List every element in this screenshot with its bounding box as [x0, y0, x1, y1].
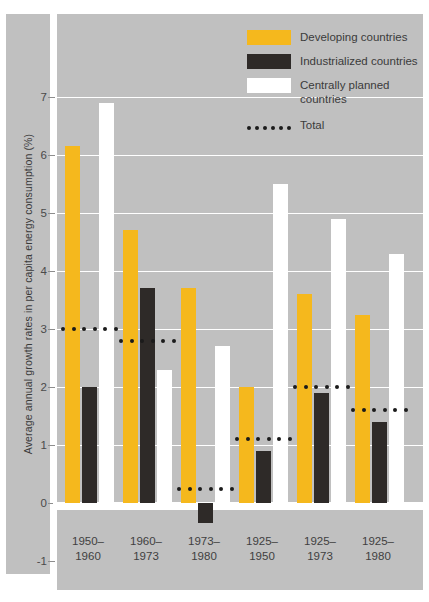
bar-developing — [239, 387, 254, 503]
y-tick-mark-1 — [48, 445, 55, 446]
total-marker-dot — [304, 385, 308, 389]
total-marker-dot — [103, 327, 107, 331]
bar-group — [181, 14, 239, 502]
total-marker-dot — [277, 437, 281, 441]
y-tick-mark-neg1 — [48, 561, 55, 562]
total-marker — [119, 339, 176, 343]
total-marker-dot — [198, 487, 202, 491]
x-tick-label-line1: 1960– — [117, 534, 175, 549]
total-marker-dot — [172, 339, 176, 343]
x-tick-label-line2: 1973 — [291, 549, 349, 564]
bar-centrally-planned — [273, 184, 288, 503]
y-tick-label-5: 5 — [41, 207, 47, 219]
x-tick-label-line1: 1950– — [59, 534, 117, 549]
total-marker-dot — [177, 487, 181, 491]
bar-group — [65, 14, 123, 502]
total-marker-dot — [119, 339, 123, 343]
total-marker — [293, 385, 350, 389]
total-marker — [351, 408, 408, 412]
total-marker-dot — [72, 327, 76, 331]
y-tick-mark-3 — [48, 329, 55, 330]
total-marker-dot — [230, 487, 234, 491]
bar-industrialized — [198, 503, 213, 523]
total-marker-dot — [362, 408, 366, 412]
y-tick-label-1: 1 — [41, 439, 47, 451]
legend-swatch-industrialized — [247, 54, 291, 69]
legend-item-total: Total — [247, 118, 427, 135]
bar-developing — [181, 288, 196, 503]
x-tick-label-line2: 1960 — [59, 549, 117, 564]
x-tick-label-line2: 1973 — [117, 549, 175, 564]
legend-item-centrally-planned: Centrally planned countries — [247, 78, 427, 106]
total-marker-dot — [393, 408, 397, 412]
bar-industrialized — [314, 393, 329, 503]
bar-industrialized — [140, 288, 155, 503]
total-marker-dot — [93, 327, 97, 331]
x-axis-labels: 1950–19601960–19731973–19801925–19501925… — [57, 510, 423, 590]
legend-label-centrally-planned: Centrally planned countries — [300, 78, 390, 106]
total-marker — [235, 437, 292, 441]
x-tick-label-line1: 1925– — [233, 534, 291, 549]
x-tick-label-line1: 1925– — [291, 534, 349, 549]
y-tick-label-4: 4 — [41, 265, 47, 277]
bar-industrialized — [372, 422, 387, 503]
total-marker — [61, 327, 118, 331]
total-marker-dot — [404, 408, 408, 412]
total-marker-dot — [140, 339, 144, 343]
legend-label-centrally-planned-line2: countries — [300, 92, 390, 106]
legend-label-industrialized: Industrialized countries — [300, 54, 418, 68]
total-marker-dot — [61, 327, 65, 331]
total-marker-dot — [335, 385, 339, 389]
x-tick-label: 1925–1973 — [291, 534, 349, 564]
total-marker-dot — [346, 385, 350, 389]
total-marker-dot — [372, 408, 376, 412]
bar-centrally-planned — [215, 346, 230, 503]
total-marker-dot — [209, 487, 213, 491]
x-tick-label-line1: 1925– — [349, 534, 407, 549]
y-tick-mark-5 — [48, 213, 55, 214]
total-marker-dot — [130, 339, 134, 343]
legend-label-developing: Developing countries — [300, 30, 407, 44]
y-axis-ticks: -101234567 — [0, 14, 55, 574]
y-tick-mark-2 — [48, 387, 55, 388]
bar-developing — [65, 146, 80, 503]
x-tick-label: 1925–1950 — [233, 534, 291, 564]
x-tick-label-line2: 1980 — [349, 549, 407, 564]
bar-developing — [123, 230, 138, 503]
x-tick-label: 1950–1960 — [59, 534, 117, 564]
total-marker-dot — [325, 385, 329, 389]
total-marker-dot — [82, 327, 86, 331]
bar-centrally-planned — [331, 219, 346, 503]
total-marker-dot — [114, 327, 118, 331]
bar-centrally-planned — [157, 370, 172, 503]
bar-developing — [297, 294, 312, 503]
x-tick-label-line2: 1980 — [175, 549, 233, 564]
legend-item-developing: Developing countries — [247, 30, 427, 45]
x-tick-label-line1: 1973– — [175, 534, 233, 549]
total-marker-dot — [161, 339, 165, 343]
legend: Developing countries Industrialized coun… — [247, 30, 427, 144]
total-marker-dot — [351, 408, 355, 412]
legend-label-total: Total — [300, 118, 324, 132]
y-tick-label-7: 7 — [41, 91, 47, 103]
y-tick-mark-7 — [48, 97, 55, 98]
bar-industrialized — [256, 451, 271, 503]
total-marker-dot — [256, 437, 260, 441]
bar-group — [123, 14, 181, 502]
legend-label-centrally-planned-line1: Centrally planned — [300, 78, 390, 92]
total-marker-dot — [188, 487, 192, 491]
total-marker-dot — [235, 437, 239, 441]
y-tick-label-3: 3 — [41, 323, 47, 335]
total-marker-dot — [151, 339, 155, 343]
x-tick-label: 1960–1973 — [117, 534, 175, 564]
x-tick-label: 1925–1980 — [349, 534, 407, 564]
total-marker-dot — [267, 437, 271, 441]
legend-swatch-total — [247, 118, 291, 135]
x-tick-label-line2: 1950 — [233, 549, 291, 564]
total-marker — [177, 487, 234, 491]
total-marker-dot — [246, 437, 250, 441]
total-marker-dot — [293, 385, 297, 389]
bar-industrialized — [82, 387, 97, 503]
bar-centrally-planned — [99, 103, 114, 503]
y-tick-mark-4 — [48, 271, 55, 272]
